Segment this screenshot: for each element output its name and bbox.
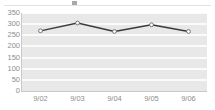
x-axis-tick-label: 9/02 xyxy=(33,94,48,104)
y-axis-tick-label: 0 xyxy=(16,87,20,95)
x-axis-spine xyxy=(21,91,207,92)
x-axis-tick-label: 9/06 xyxy=(181,94,196,104)
x-axis-tick-label: 9/03 xyxy=(70,94,85,104)
legend-series-marker-icon xyxy=(72,1,77,5)
y-axis-tick-label: 300 xyxy=(7,20,20,28)
data-point-marker[interactable] xyxy=(39,29,43,33)
data-point-marker[interactable] xyxy=(76,21,80,25)
y-axis-tick-label: 150 xyxy=(7,54,20,62)
data-point-marker[interactable] xyxy=(150,23,154,27)
y-axis-tick-label: 50 xyxy=(12,76,20,84)
y-axis-tick-label: 350 xyxy=(7,9,20,17)
x-axis-tick-label: 9/04 xyxy=(107,94,122,104)
legend-divider xyxy=(4,5,211,6)
y-axis-tick-label: 100 xyxy=(7,65,20,73)
y-axis-tick-label: 200 xyxy=(7,42,20,50)
line-chart: 050100150200250300350 9/029/039/049/059/… xyxy=(0,0,215,110)
chart-legend xyxy=(0,0,215,7)
series-layer xyxy=(22,13,207,91)
y-axis-tick-label: 250 xyxy=(7,31,20,39)
x-axis-tick-label: 9/05 xyxy=(144,94,159,104)
data-point-marker[interactable] xyxy=(187,30,191,34)
data-point-marker[interactable] xyxy=(113,30,117,34)
plot-area xyxy=(22,13,207,91)
y-axis: 050100150200250300350 xyxy=(0,9,22,95)
x-axis: 9/029/039/049/059/06 xyxy=(22,94,207,108)
